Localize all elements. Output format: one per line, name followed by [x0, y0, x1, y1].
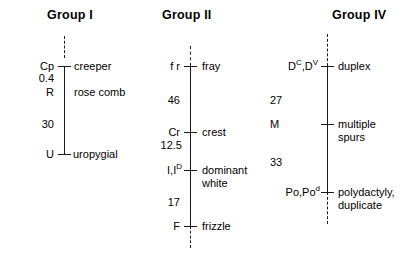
- group-4-symbol-d: DC,DV: [270, 60, 318, 72]
- group-1-trait-rose-comb: rose comb: [74, 86, 125, 99]
- group-4-symbol-po-sup: d: [316, 184, 320, 193]
- group-2-trait-crest: crest: [202, 126, 226, 139]
- group-2-symbol-fr: f r: [140, 60, 180, 72]
- group-1-symbol-u: U: [0, 148, 54, 160]
- group-2-distance-2: 17: [140, 196, 180, 208]
- group-2-tick-f: [184, 226, 197, 227]
- group-1-distance-0: 0.4: [0, 72, 54, 84]
- linkage-group-1: Group I Cp creeper 0.4 R rose comb 30 U …: [0, 0, 140, 276]
- group-1-title: Group I: [0, 8, 140, 22]
- group-1-tick-cp: [58, 66, 71, 67]
- group-2-axis-dash-top: [190, 46, 191, 66]
- linkage-map-figure: Group I Cp creeper 0.4 R rose comb 30 U …: [0, 0, 410, 276]
- group-1-trait-uropygial: uropygial: [73, 148, 118, 161]
- group-2-distance-1: 12.5: [140, 139, 182, 151]
- group-2-symbol-i-sup: D: [176, 162, 182, 171]
- group-4-symbol-po-base: Po,Po: [286, 186, 316, 198]
- group-2-symbol-cr: Cr: [140, 126, 180, 138]
- group-4-symbol-d-base-b: ,D: [302, 60, 313, 72]
- group-1-axis-dash-top: [64, 36, 65, 58]
- group-2-tick-cr: [184, 132, 197, 133]
- group-4-axis-dash-bottom: [327, 192, 328, 224]
- group-4-distance-0: 27: [270, 94, 318, 106]
- group-2-symbol-f: F: [140, 220, 180, 232]
- group-1-tick-u: [58, 154, 71, 155]
- group-4-symbol-m: M: [270, 118, 318, 130]
- group-4-trait-duplex: duplex: [338, 60, 370, 73]
- group-2-axis-dash-bottom: [190, 226, 191, 248]
- group-4-symbol-d-base-a: D: [288, 60, 296, 72]
- linkage-group-2: Group II f r fray 46 Cr crest 12.5 I,ID …: [140, 0, 280, 276]
- group-2-symbol-i: I,ID: [140, 164, 182, 176]
- group-4-trait-polydactyly: polydactyly, duplicate: [338, 186, 395, 211]
- group-2-trait-frizzle: frizzle: [202, 220, 231, 233]
- group-2-tick-fr: [184, 66, 197, 67]
- group-1-symbol-cp: Cp: [0, 60, 54, 72]
- group-4-tick-po: [321, 192, 334, 193]
- group-1-distance-1: 30: [0, 118, 54, 130]
- group-4-axis: [327, 66, 328, 192]
- group-4-symbol-d-sup-b: V: [313, 58, 318, 67]
- group-4-tick-m: [321, 124, 334, 125]
- group-4-tick-d: [321, 66, 334, 67]
- group-2-symbol-i-base: I,I: [167, 164, 176, 176]
- group-4-symbol-po: Po,Pod: [270, 186, 320, 198]
- group-4-axis-dash-top: [327, 34, 328, 66]
- group-2-axis: [190, 66, 191, 226]
- group-2-tick-i: [184, 170, 197, 171]
- group-1-trait-creeper: creeper: [74, 60, 111, 73]
- group-1-symbol-r: R: [0, 86, 54, 98]
- group-4-title: Group IV: [332, 8, 386, 22]
- group-4-distance-1: 33: [270, 156, 318, 168]
- group-1-axis: [64, 66, 65, 154]
- group-2-distance-0: 46: [140, 94, 180, 106]
- group-2-title: Group II: [162, 8, 212, 22]
- group-2-trait-dominant-white: dominant white: [202, 164, 247, 189]
- linkage-group-4: Group IV DC,DV duplex 27 M multiple spur…: [270, 0, 410, 276]
- group-4-trait-multiple-spurs: multiple spurs: [338, 118, 376, 143]
- group-2-trait-fray: fray: [202, 60, 220, 73]
